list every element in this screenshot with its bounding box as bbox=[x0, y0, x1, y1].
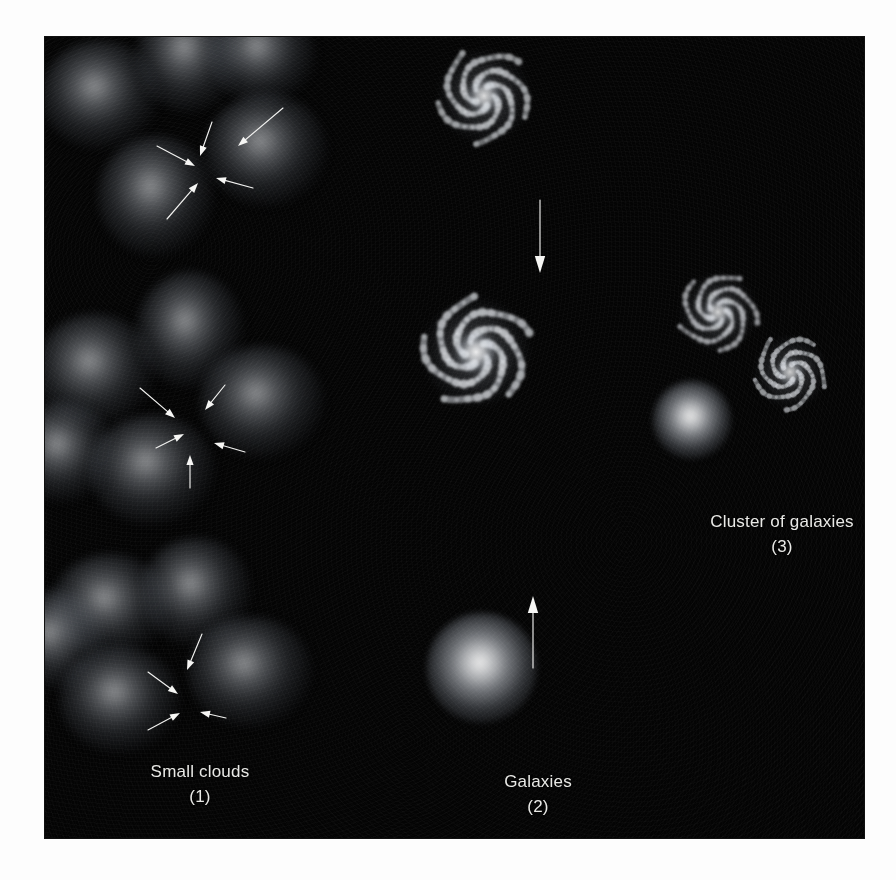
astronomy-figure-panel: Small clouds (1) Galaxies (2) Cluster of… bbox=[45, 37, 864, 838]
galaxy-top bbox=[429, 41, 539, 151]
spiral-galaxies-layer bbox=[45, 37, 864, 838]
caption-cluster-number: (3) bbox=[710, 535, 854, 560]
caption-cluster-of-galaxies: Cluster of galaxies (3) bbox=[710, 510, 854, 559]
caption-cluster-label: Cluster of galaxies bbox=[710, 512, 854, 531]
caption-galaxies: Galaxies (2) bbox=[504, 770, 572, 819]
caption-small-clouds-label: Small clouds bbox=[151, 762, 250, 781]
caption-small-clouds-number: (1) bbox=[151, 785, 250, 810]
caption-galaxies-number: (2) bbox=[504, 795, 572, 820]
galaxy-cluster-right bbox=[747, 329, 833, 415]
caption-galaxies-label: Galaxies bbox=[504, 772, 572, 791]
page-background: Small clouds (1) Galaxies (2) Cluster of… bbox=[0, 0, 896, 880]
caption-small-clouds: Small clouds (1) bbox=[151, 760, 250, 809]
galaxy-middle bbox=[412, 288, 540, 416]
